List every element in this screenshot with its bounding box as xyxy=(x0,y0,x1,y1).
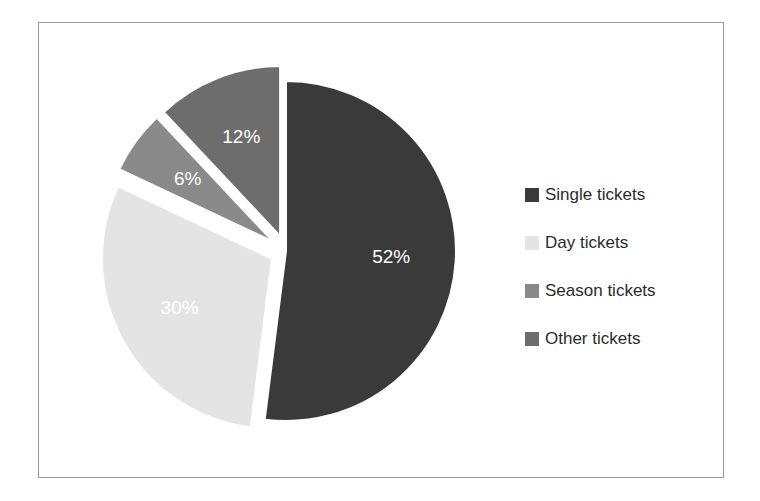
legend-swatch-icon xyxy=(525,284,539,298)
pie-slice-value-label: 6% xyxy=(174,168,202,189)
pie-slice-value-label: 12% xyxy=(222,126,260,147)
pie-chart: 52%30%6%12% xyxy=(39,23,479,479)
pie-slice xyxy=(265,81,456,421)
legend-item-label: Day tickets xyxy=(545,233,628,253)
legend-item[interactable]: Day tickets xyxy=(525,231,725,255)
legend-item-label: Season tickets xyxy=(545,281,656,301)
chart-page: 52%30%6%12% Single ticketsDay ticketsSea… xyxy=(0,0,760,501)
legend-swatch-icon xyxy=(525,236,539,250)
chart-plot-area: 52%30%6%12% Single ticketsDay ticketsSea… xyxy=(39,23,725,479)
legend-swatch-icon xyxy=(525,332,539,346)
pie-slice-value-label: 52% xyxy=(372,246,410,267)
pie-slice-value-label: 30% xyxy=(161,297,199,318)
legend-item-label: Single tickets xyxy=(545,185,645,205)
chart-frame: 52%30%6%12% Single ticketsDay ticketsSea… xyxy=(38,22,724,478)
legend-item-label: Other tickets xyxy=(545,329,640,349)
legend-swatch-icon xyxy=(525,188,539,202)
legend-item[interactable]: Other tickets xyxy=(525,327,725,351)
legend-item[interactable]: Single tickets xyxy=(525,183,725,207)
legend: Single ticketsDay ticketsSeason ticketsO… xyxy=(525,183,725,375)
legend-item[interactable]: Season tickets xyxy=(525,279,725,303)
